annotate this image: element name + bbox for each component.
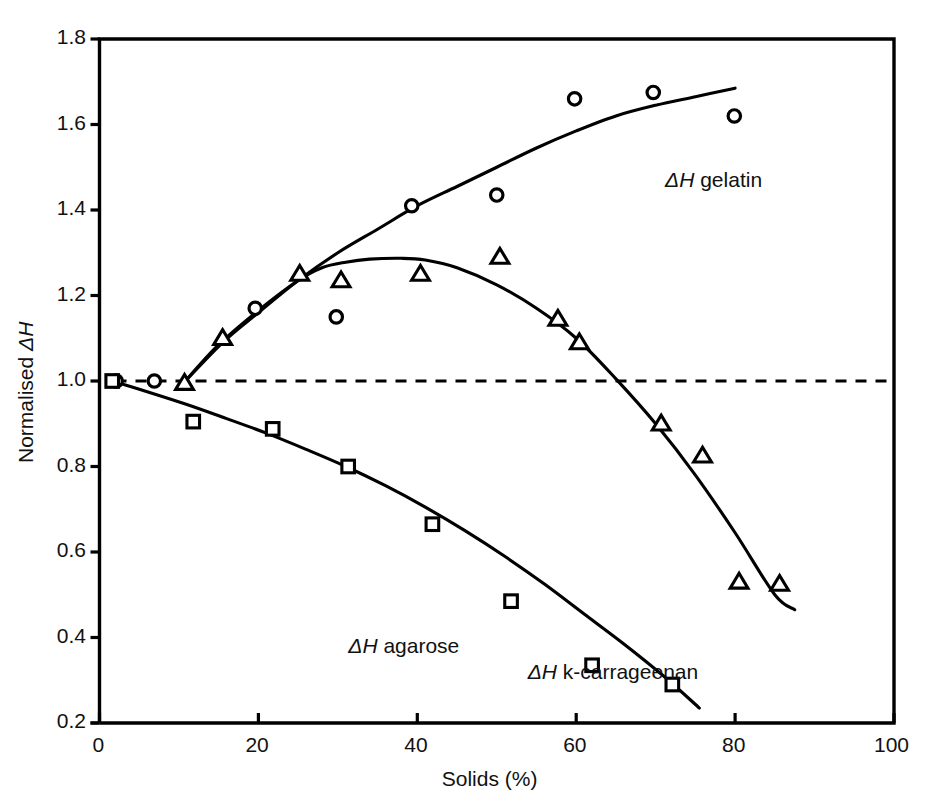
marker-circle	[491, 189, 503, 201]
marker-square	[342, 460, 355, 473]
fit-curve-0	[185, 88, 735, 381]
y-tick-label: 1.6	[30, 111, 86, 135]
y-tick-label: 1.0	[30, 367, 86, 391]
marker-square	[426, 518, 439, 531]
marker-triangle	[771, 575, 789, 590]
marker-triangle	[491, 248, 509, 263]
series-label-agarose-symbol: ΔH	[348, 634, 377, 657]
marker-square	[505, 595, 518, 608]
x-tick-label: 60	[563, 733, 586, 757]
series-label-gelatin-text: gelatin	[694, 168, 762, 191]
x-tick-label: 40	[404, 733, 427, 757]
series-label-carrageenan-symbol: ΔH	[528, 660, 557, 683]
y-axis-title: Normalised ΔH	[14, 322, 38, 463]
y-tick-label: 1.8	[30, 25, 86, 49]
x-tick-label: 0	[93, 733, 105, 757]
marker-circle	[406, 200, 418, 212]
marker-circle	[647, 86, 659, 98]
marker-triangle	[730, 573, 748, 588]
marker-square	[106, 375, 119, 388]
plot-canvas	[0, 0, 938, 807]
series-label-agarose: ΔH agarose	[348, 634, 459, 658]
y-axis-title-symbol: ΔH	[14, 322, 37, 351]
series-label-carrageenan: ΔH k-carrageenan	[528, 660, 699, 684]
y-tick-label: 0.4	[30, 624, 86, 648]
axis-ticks	[91, 39, 895, 723]
marker-triangle	[549, 310, 567, 325]
chart-figure: 0.2 0.4 0.6 0.8 1.0 1.2 1.4 1.6 1.8 0 20…	[0, 0, 938, 807]
y-tick-label: 0.2	[30, 709, 86, 733]
marker-triangle	[652, 415, 670, 430]
x-axis-title: Solids (%)	[442, 767, 538, 791]
series-label-gelatin: ΔH gelatin	[665, 168, 762, 192]
marker-triangle	[694, 447, 712, 462]
marker-square	[266, 423, 279, 436]
series-label-gelatin-symbol: ΔH	[665, 168, 694, 191]
y-axis-title-prefix: Normalised	[14, 351, 37, 463]
x-tick-label: 80	[722, 733, 745, 757]
y-tick-label: 1.2	[30, 282, 86, 306]
marker-triangle	[412, 266, 430, 281]
y-tick-label: 1.4	[30, 196, 86, 220]
x-tick-label: 100	[874, 733, 909, 757]
marker-circle	[148, 375, 160, 387]
marker-circle	[330, 311, 342, 323]
marker-square	[187, 415, 200, 428]
marker-circle	[568, 93, 580, 105]
marker-triangle	[332, 272, 350, 287]
y-tick-label: 0.8	[30, 453, 86, 477]
y-tick-label: 0.6	[30, 538, 86, 562]
marker-triangle	[214, 330, 232, 345]
x-tick-label: 20	[245, 733, 268, 757]
series-label-agarose-text: agarose	[378, 634, 460, 657]
series-label-carrageenan-text: k-carrageenan	[557, 660, 698, 683]
marker-circle	[728, 110, 740, 122]
marker-circle	[249, 302, 261, 314]
marker-triangle	[291, 266, 309, 281]
